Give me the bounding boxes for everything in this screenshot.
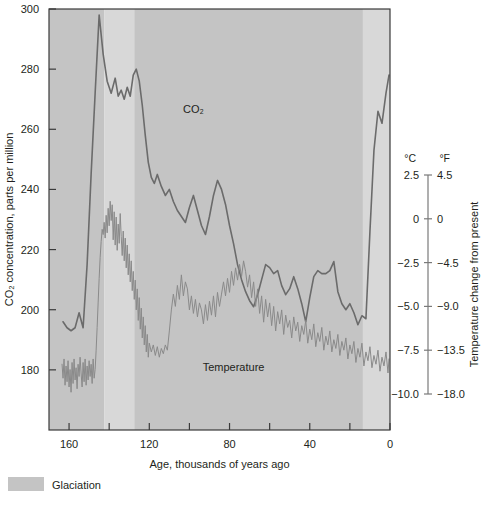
temperature-curve-label: Temperature xyxy=(203,361,265,373)
legend-swatch-glaciation xyxy=(8,477,44,491)
climate-chart-figure: 300280260240220200180CO₂ concentration, … xyxy=(0,0,486,505)
y-right-celsius-label: −10.0 xyxy=(391,388,419,400)
y-right-celsius-label: −2.5 xyxy=(397,257,419,269)
x-tick-label: 120 xyxy=(140,438,158,450)
y-right-fahrenheit-label: −9.0 xyxy=(437,300,459,312)
legend-label-glaciation: Glaciation xyxy=(52,479,101,491)
band-interglacial-holocene xyxy=(363,9,390,430)
co2-curve-label: CO₂ xyxy=(183,103,204,115)
y-left-tick-label: 240 xyxy=(21,183,39,195)
x-tick-label: 0 xyxy=(387,438,393,450)
x-tick-label: 40 xyxy=(304,438,316,450)
y-right-fahrenheit-label: −4.5 xyxy=(437,257,459,269)
x-tick-label: 80 xyxy=(223,438,235,450)
y-right-celsius-label: 2.5 xyxy=(404,169,419,181)
y-left-tick-label: 180 xyxy=(21,364,39,376)
x-tick-label: 160 xyxy=(60,438,78,450)
y-left-tick-label: 300 xyxy=(21,3,39,15)
y-axis-right-title: Temperature change from present xyxy=(468,202,480,368)
y-right-fahrenheit-label: 0 xyxy=(437,213,443,225)
y-right-fahrenheit-label: −18.0 xyxy=(437,388,465,400)
y-right-fahrenheit-label: −13.5 xyxy=(437,344,465,356)
y-right-celsius-label: −5.0 xyxy=(397,300,419,312)
y-right-celsius-label: −7.5 xyxy=(397,344,419,356)
celsius-unit-header: °C xyxy=(404,152,416,164)
chart-svg: 300280260240220200180CO₂ concentration, … xyxy=(0,0,486,505)
y-left-tick-label: 260 xyxy=(21,123,39,135)
y-axis-left-title: CO₂ concentration, parts per million xyxy=(3,133,15,307)
x-axis-title: Age, thousands of years ago xyxy=(149,458,289,470)
y-left-tick-label: 220 xyxy=(21,244,39,256)
legend: Glaciation xyxy=(8,477,101,491)
y-left-tick-label: 280 xyxy=(21,63,39,75)
y-right-celsius-label: 0 xyxy=(413,213,419,225)
y-left-tick-label: 200 xyxy=(21,304,39,316)
fahrenheit-unit-header: °F xyxy=(439,152,450,164)
y-right-fahrenheit-label: 4.5 xyxy=(437,169,452,181)
